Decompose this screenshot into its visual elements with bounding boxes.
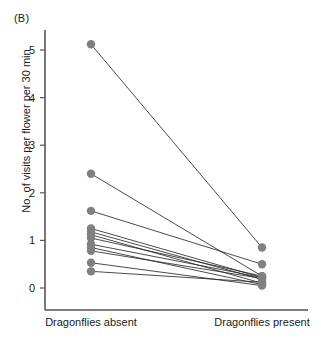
y-tick-label: 5 <box>29 44 35 56</box>
data-point-marker <box>87 267 95 275</box>
data-point-marker <box>87 247 95 255</box>
y-tick-label: 4 <box>29 92 35 104</box>
chart-panel: (B) No. of visits per flower per 30 min … <box>0 0 321 338</box>
y-tick-label: 1 <box>29 234 35 246</box>
pair-line <box>91 235 262 284</box>
data-point-marker <box>258 243 266 251</box>
y-tick-label: 0 <box>29 282 35 294</box>
x-axis-labels: Dragonflies absentDragonflies present <box>45 316 310 328</box>
x-category-label: Dragonflies present <box>214 316 309 328</box>
pair-lines <box>91 44 262 285</box>
plot-canvas: 012345 Dragonflies absentDragonflies pre… <box>0 0 321 338</box>
pair-line <box>91 211 262 264</box>
y-tick-label: 3 <box>29 139 35 151</box>
pair-line <box>91 271 262 282</box>
data-point-marker <box>87 40 95 48</box>
data-point-marker <box>87 259 95 267</box>
x-category-label: Dragonflies absent <box>45 316 137 328</box>
data-point-marker <box>87 207 95 215</box>
axis-lines <box>45 30 308 310</box>
data-point-marker <box>87 170 95 178</box>
data-point-marker <box>87 234 95 242</box>
y-axis-ticks: 012345 <box>29 44 45 294</box>
pair-line <box>91 238 262 276</box>
pair-line <box>91 44 262 247</box>
y-tick-label: 2 <box>29 187 35 199</box>
data-point-marker <box>258 260 266 268</box>
data-point-marker <box>258 272 266 280</box>
